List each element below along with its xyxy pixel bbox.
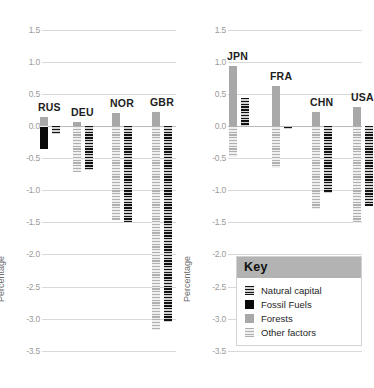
y-axis-tick-label: -1.5 — [192, 218, 226, 226]
y-axis-tick-label: 0.0 — [192, 122, 226, 130]
bar-fra-forests — [272, 86, 280, 126]
group-label-nor: NOR — [110, 97, 134, 109]
y-axis-tick-label: 0.5 — [6, 90, 40, 98]
bar-jpn-natural-capital — [241, 98, 249, 126]
bar-fra-other-factors — [272, 126, 280, 168]
y-axis-tick-label: -1.0 — [192, 186, 226, 194]
y-axis-right: 1.51.00.50.0-0.5-1.0-1.5-2.0-2.5-3.0-3.5 — [186, 0, 226, 388]
group-label-deu: DEU — [71, 106, 94, 118]
gridline — [228, 351, 362, 352]
bar-chn-forests — [312, 112, 320, 126]
gridline — [228, 94, 362, 95]
group-label-fra: FRA — [270, 70, 292, 82]
y-axis-tick-label: 1.0 — [192, 58, 226, 66]
y-axis-title-right: Percentage — [182, 256, 192, 302]
bar-jpn-forests — [229, 66, 237, 126]
legend-item-forests[interactable]: Forests — [237, 311, 361, 325]
bar-nor-forests — [112, 113, 120, 126]
bar-rus-natural-capital — [52, 126, 60, 134]
gridline — [228, 30, 362, 31]
bar-usa-natural-capital — [365, 126, 373, 206]
bar-nor-other-factors — [112, 126, 120, 220]
y-axis-tick-label: -1.5 — [6, 218, 40, 226]
y-axis-tick-label: -2.5 — [192, 283, 226, 291]
y-axis-title-left: Percentage — [0, 256, 6, 302]
gridline — [228, 158, 362, 159]
gridline — [42, 62, 176, 63]
y-axis-tick-label: 1.5 — [192, 26, 226, 34]
gridline — [42, 94, 176, 95]
bar-usa-other-factors — [353, 126, 361, 223]
gridline — [42, 30, 176, 31]
legend-swatch-icon — [245, 328, 254, 337]
bar-deu-other-factors — [73, 126, 81, 172]
legend-item-fossil-fuels[interactable]: Fossil Fuels — [237, 297, 361, 311]
y-axis-tick-label: 1.0 — [6, 58, 40, 66]
bar-rus-other-factors — [40, 125, 48, 128]
bar-gbr-natural-capital — [164, 126, 172, 322]
bar-gbr-forests — [152, 112, 160, 126]
legend-swatch-icon — [245, 300, 254, 309]
group-label-rus: RUS — [38, 101, 61, 113]
legend-item-label: Fossil Fuels — [261, 299, 312, 310]
y-axis-tick-label: -1.0 — [6, 186, 40, 194]
legend-item-label: Forests — [261, 313, 293, 324]
legend-item-other-factors[interactable]: Other factors — [237, 325, 361, 339]
y-axis-tick-label: -3.0 — [192, 315, 226, 323]
gridline — [228, 254, 362, 255]
legend-title: Key — [237, 257, 361, 278]
chart-panel-left: 1.51.00.50.0-0.5-1.0-1.5-2.0-2.5-3.0-3.5… — [0, 0, 186, 388]
group-label-chn: CHN — [310, 96, 333, 108]
y-axis-tick-label: 0.0 — [6, 122, 40, 130]
y-axis-tick-label: -0.5 — [6, 154, 40, 162]
bar-usa-forests — [353, 107, 361, 126]
group-label-usa: USA — [351, 91, 374, 103]
y-axis-tick-label: 0.5 — [192, 90, 226, 98]
y-axis-tick-label: -3.0 — [6, 315, 40, 323]
y-axis-tick-label: 1.5 — [6, 26, 40, 34]
gridline — [228, 62, 362, 63]
y-axis-tick-label: -3.5 — [192, 347, 226, 355]
bar-chn-natural-capital — [324, 126, 332, 193]
gridline — [228, 190, 362, 191]
plot-area-left: RUSDEUNORGBR — [42, 0, 176, 388]
legend-item-natural-capital[interactable]: Natural capital — [237, 283, 361, 297]
bar-nor-natural-capital — [124, 126, 132, 222]
bar-gbr-other-factors — [152, 126, 160, 330]
group-label-gbr: GBR — [150, 96, 174, 108]
bar-fra-natural-capital — [284, 127, 292, 129]
legend-swatch-icon — [245, 286, 254, 295]
y-axis-tick-label: -3.5 — [6, 347, 40, 355]
bar-rus-fossil-fuels — [40, 126, 48, 149]
bar-chn-other-factors — [312, 126, 320, 209]
legend-swatch-icon — [245, 314, 254, 323]
y-axis-tick-label: -0.5 — [192, 154, 226, 162]
gridline — [42, 351, 176, 352]
legend-item-label: Natural capital — [261, 285, 322, 296]
bar-deu-natural-capital — [85, 126, 93, 170]
y-axis-left: 1.51.00.50.0-0.5-1.0-1.5-2.0-2.5-3.0-3.5 — [0, 0, 40, 388]
legend-body: Natural capitalFossil FuelsForestsOther … — [237, 278, 361, 345]
y-axis-tick-label: -2.0 — [6, 250, 40, 258]
zero-line — [228, 126, 362, 127]
gridline — [228, 222, 362, 223]
legend-item-label: Other factors — [261, 327, 316, 338]
y-axis-tick-label: -2.5 — [6, 283, 40, 291]
y-axis-tick-label: -2.0 — [192, 250, 226, 258]
bar-jpn-other-factors — [229, 126, 237, 157]
legend: Key Natural capitalFossil FuelsForestsOt… — [236, 256, 362, 346]
group-label-jpn: JPN — [227, 50, 248, 62]
